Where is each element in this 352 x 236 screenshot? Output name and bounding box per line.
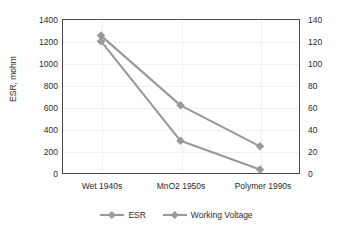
y-axis-left-tick: 1200	[28, 37, 58, 47]
legend-swatch-icon	[162, 210, 188, 220]
y-axis-left-tick: 400	[28, 125, 58, 135]
data-point-marker	[256, 142, 264, 150]
data-point-marker	[256, 165, 264, 173]
y-axis-right-tick: 80	[308, 81, 338, 91]
x-axis-category-label: Wet 1940s	[62, 181, 142, 191]
y-axis-left-tick: 800	[28, 81, 58, 91]
legend-label: ESR	[128, 210, 145, 220]
y-axis-left-tick: 600	[28, 103, 58, 113]
x-axis-category-label: Polymer 1990s	[220, 181, 306, 191]
line-series-esr	[101, 36, 260, 147]
y-axis-right-tick: 0	[308, 169, 338, 179]
markers-series-esr	[97, 31, 264, 150]
y-axis-right-tick: 120	[308, 37, 338, 47]
legend-label: Working Voltage	[191, 210, 253, 220]
y-axis-right-tick: 60	[308, 103, 338, 113]
legend-swatch-icon	[99, 210, 125, 220]
y-axis-left-tick: 1400	[28, 15, 58, 25]
x-axis-category-label: MnO2 1950s	[141, 181, 221, 191]
y-axis-right-tick: 20	[308, 147, 338, 157]
y-axis-left-title: ESR, mohm	[8, 40, 18, 118]
legend-item-esr[interactable]: ESR	[99, 210, 145, 220]
y-axis-right-tick: 40	[308, 125, 338, 135]
legend: ESR Working Voltage	[0, 210, 352, 220]
y-axis-left-tick: 200	[28, 147, 58, 157]
series-layer	[62, 19, 300, 174]
legend-item-working-voltage[interactable]: Working Voltage	[162, 210, 253, 220]
y-axis-left-tick: 0	[28, 169, 58, 179]
chart-container: ESR, mohm Working Voltage, V 1400 1200 1…	[0, 0, 352, 236]
y-axis-left-tick: 1000	[28, 59, 58, 69]
y-axis-right-tick: 100	[308, 59, 338, 69]
y-axis-right-tick: 140	[308, 15, 338, 25]
